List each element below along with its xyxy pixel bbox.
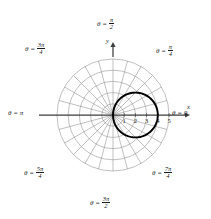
theta-0-label: θ = 0 <box>172 110 187 117</box>
theta-7pi-4-denominator: 4 <box>164 172 173 180</box>
radial-tick-3: 3 <box>145 118 148 125</box>
radial-tick-4: 4 <box>156 118 159 125</box>
theta-5pi-4-prefix: θ = <box>24 170 34 177</box>
theta-3pi-4-denominator: 4 <box>37 48 46 56</box>
theta-3pi-2-fraction: 3π2 <box>102 196 111 210</box>
theta-pi-prefix: θ = <box>8 110 18 117</box>
theta-pi-2-denominator: 2 <box>109 23 114 31</box>
theta-3pi-4-label: θ = 3π4 <box>25 42 45 56</box>
theta-pi-value: π <box>20 110 24 117</box>
theta-3pi-4-fraction: 3π4 <box>37 42 46 56</box>
theta-5pi-4-label: θ = 5π4 <box>24 166 44 180</box>
theta-5pi-4-fraction: 5π4 <box>36 166 45 180</box>
theta-7pi-4-label: θ = 7π4 <box>152 166 172 180</box>
polar-plot-figure: x y 12345 θ = 0θ = π4θ = π2θ = 3π4θ = πθ… <box>0 0 211 219</box>
theta-7pi-4-prefix: θ = <box>152 170 162 177</box>
y-axis-label: y <box>106 38 109 45</box>
theta-3pi-4-prefix: θ = <box>25 46 35 53</box>
theta-3pi-2-prefix: θ = <box>90 200 100 207</box>
x-axis-label: x <box>187 104 190 111</box>
theta-pi-label: θ = π <box>8 110 23 117</box>
theta-3pi-2-denominator: 2 <box>102 202 111 210</box>
theta-pi-2-prefix: θ = <box>97 21 107 28</box>
theta-pi-4-label: θ = π4 <box>156 44 173 58</box>
theta-pi-4-fraction: π4 <box>168 44 173 58</box>
theta-7pi-4-fraction: 7π4 <box>164 166 173 180</box>
theta-pi-4-prefix: θ = <box>156 48 166 55</box>
theta-3pi-2-label: θ = 3π2 <box>90 196 110 210</box>
theta-pi-4-denominator: 4 <box>168 50 173 58</box>
radial-tick-2: 2 <box>134 118 137 125</box>
theta-pi-2-fraction: π2 <box>109 17 114 31</box>
theta-pi-2-label: θ = π2 <box>97 17 114 31</box>
radial-tick-5: 5 <box>167 118 170 125</box>
theta-0-prefix: θ = <box>172 110 182 117</box>
radial-tick-1: 1 <box>123 118 126 125</box>
theta-0-value: 0 <box>184 110 188 117</box>
theta-5pi-4-denominator: 4 <box>36 172 45 180</box>
